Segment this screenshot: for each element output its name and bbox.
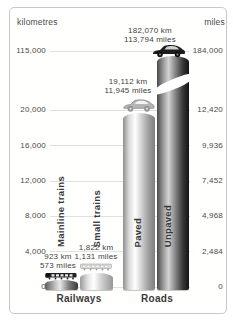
left-tick-20000: 20,000 — [12, 105, 46, 114]
annotation-paved-km: 19,112 km — [88, 77, 168, 86]
bar-mainline-trains — [45, 280, 78, 290]
left-tick-16000: 16,000 — [12, 141, 46, 150]
right-tick-184000: 184,000 — [190, 46, 223, 55]
annotation-mainline-trains-km: 923 km — [24, 252, 92, 261]
right-tick-9936: 9,936 — [190, 141, 223, 150]
bar-small-trains — [80, 273, 113, 290]
train-icon — [45, 271, 77, 280]
right-tick-0: 0 — [190, 282, 223, 291]
left-tick-8000: 8,000 — [12, 211, 46, 220]
right-tick-2484: 2,484 — [190, 247, 223, 256]
annotation-unpaved-km: 182,070 km — [105, 26, 195, 35]
right-tick-4968: 4,968 — [190, 211, 223, 220]
transport-lengths-chart: kilometres miles 115,000 20,000 16,000 1… — [0, 0, 233, 322]
left-tick-0: 0 — [12, 282, 46, 291]
train-icon — [80, 262, 112, 271]
annotation-paved: 19,112 km 11,945 miles — [88, 77, 168, 95]
car-icon — [121, 98, 155, 113]
bar-label-mainline-trains: Mainline trains — [55, 176, 66, 247]
left-axis-title: kilometres — [17, 17, 58, 27]
bar-label-small-trains: Small trains — [91, 190, 102, 247]
left-tick-12000: 12,000 — [12, 176, 46, 185]
right-tick-7452: 7,452 — [190, 176, 223, 185]
annotation-small-trains-km: 1,822 km — [61, 243, 131, 252]
right-tick-12420: 12,420 — [190, 105, 223, 114]
annotation-paved-miles: 11,945 miles — [88, 86, 168, 95]
bar-label-paved: Paved — [132, 218, 143, 248]
car-icon — [150, 43, 186, 59]
bar-paved-roads — [123, 113, 155, 290]
left-tick-115000: 115,000 — [12, 46, 46, 55]
group-label-roads: Roads — [117, 293, 197, 304]
group-label-railways: Railways — [39, 293, 119, 304]
bar-label-unpaved: Unpaved — [162, 205, 173, 247]
annotation-unpaved: 182,070 km 113,794 miles — [105, 26, 195, 44]
